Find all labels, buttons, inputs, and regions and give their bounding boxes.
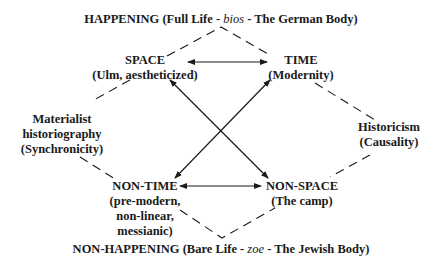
bottom-dashed-apex	[180, 208, 275, 238]
non-time-title: NON-TIME	[110, 179, 181, 194]
non-space-node: NON-SPACE (The camp)	[266, 179, 338, 209]
materialist-label: Materialist historiography (Synchronicit…	[21, 112, 103, 157]
time-title: TIME	[268, 53, 333, 68]
upper-right-dashed	[315, 83, 375, 120]
non-happening-title: NON-HAPPENING (Bare Life - zoe - The Jew…	[73, 242, 370, 257]
non-space-title: NON-SPACE	[266, 179, 338, 194]
space-nonspace-arrow	[170, 80, 268, 178]
space-subtitle: (Ulm, aestheticized)	[92, 68, 198, 83]
upper-left-dashed	[92, 80, 130, 101]
lower-right-dashed	[330, 155, 370, 177]
lower-left-dashed	[80, 157, 118, 181]
non-time-node: NON-TIME (pre-modern, non-linear, messia…	[110, 179, 181, 239]
space-node: SPACE (Ulm, aestheticized)	[92, 53, 198, 83]
happening-title: HAPPENING (Full Life - bios - The German…	[84, 12, 357, 27]
time-node: TIME (Modernity)	[268, 53, 333, 83]
non-space-subtitle: (The camp)	[266, 194, 338, 209]
time-subtitle: (Modernity)	[268, 68, 333, 83]
space-title: SPACE	[92, 53, 198, 68]
time-nontime-arrow	[175, 80, 270, 178]
historicism-label: Historicism (Causality)	[358, 120, 420, 150]
top-dashed-apex	[167, 27, 268, 56]
